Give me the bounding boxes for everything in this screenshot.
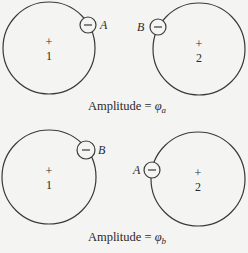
caption-amplitude-b: Amplitude = φb <box>88 230 166 246</box>
atom-1-number-a: 1 <box>46 50 52 62</box>
atom-1-plus-a: + <box>46 36 53 48</box>
panel-b <box>2 130 245 226</box>
atom-2-number-a: 2 <box>196 52 202 64</box>
atom-2-plus-b: + <box>195 167 202 179</box>
atom-2-number-b: 2 <box>195 181 201 193</box>
caption-text: Amplitude = <box>88 99 155 113</box>
caption-subscript: a <box>162 105 167 115</box>
panel-a <box>3 2 245 95</box>
atom-2-plus-a: + <box>196 38 203 50</box>
diagram-canvas <box>0 0 248 253</box>
electron-label-a: A <box>100 19 107 31</box>
atom-1-number-b: 1 <box>46 179 52 191</box>
electron-label-a: A <box>133 164 140 176</box>
electron-label-b: B <box>98 144 105 156</box>
atom-1-plus-b: + <box>46 165 53 177</box>
phi-symbol: φ <box>155 230 162 244</box>
caption-text: Amplitude = <box>88 230 155 244</box>
electron-label-b: B <box>137 21 144 33</box>
caption-subscript: b <box>162 236 167 246</box>
phi-symbol: φ <box>155 99 162 113</box>
caption-amplitude-a: Amplitude = φa <box>88 99 166 115</box>
